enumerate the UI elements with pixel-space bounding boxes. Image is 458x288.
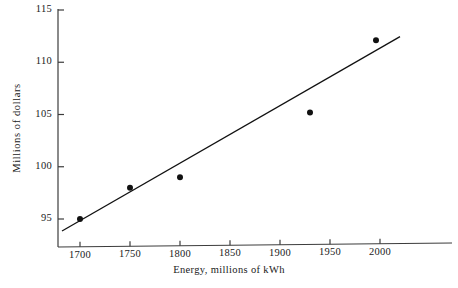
- y-tick-label: 100: [28, 160, 52, 171]
- x-axis-title: Energy, millions of kWh: [0, 264, 458, 275]
- y-tick-label: 105: [28, 108, 52, 119]
- fitted-trend-line: [62, 37, 400, 231]
- y-tick-label: 115: [28, 3, 52, 14]
- data-point: [373, 37, 379, 43]
- y-axis-title: Millions of dollars: [11, 83, 22, 173]
- scatter-plot-figure: Millions of dollars Energy, millions of …: [0, 0, 458, 288]
- data-point: [307, 109, 313, 115]
- x-tick-label: 1750: [106, 248, 154, 259]
- axes-group: [58, 9, 452, 247]
- data-point: [127, 185, 133, 191]
- x-tick-label: 2000: [356, 246, 404, 257]
- data-point: [177, 174, 183, 180]
- x-tick-label: 1850: [206, 247, 254, 258]
- x-tick-label: 1700: [56, 249, 104, 260]
- x-tick-label: 1800: [156, 248, 204, 259]
- x-tick-label: 1950: [306, 246, 354, 257]
- y-tick-label: 110: [28, 55, 52, 66]
- x-tick-label: 1900: [256, 247, 304, 258]
- trend-line-segment: [62, 37, 400, 231]
- y-axis-ticks: [58, 10, 64, 219]
- data-point: [77, 216, 83, 222]
- data-point-markers: [77, 37, 379, 222]
- y-tick-label: 95: [28, 212, 52, 223]
